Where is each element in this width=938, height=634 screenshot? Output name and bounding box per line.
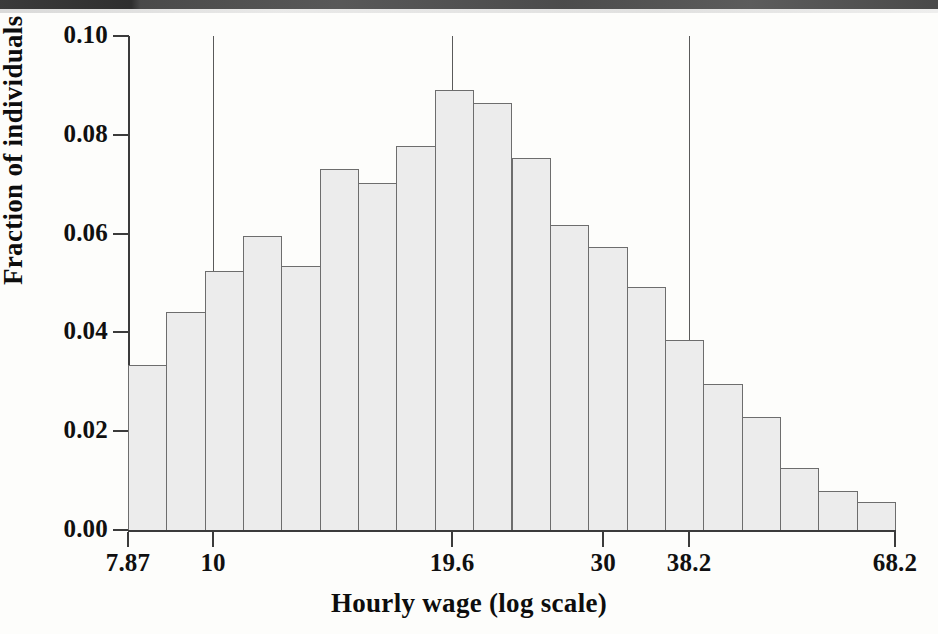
histogram-bar (473, 103, 512, 530)
histogram-bar (358, 183, 397, 530)
x-axis-line (128, 530, 896, 532)
histogram-bar (243, 236, 282, 530)
y-tick-mark (113, 134, 129, 136)
histogram-bar (396, 146, 435, 530)
y-tick-mark (113, 35, 129, 37)
x-tick-label: 30 (591, 549, 616, 577)
plot-area (128, 36, 895, 530)
x-tick-mark (894, 532, 896, 547)
x-tick-mark (451, 532, 453, 547)
figure-canvas: 0.000.020.040.060.080.10 7.871019.63038.… (0, 0, 938, 634)
y-tick-label: 0.04 (0, 317, 108, 345)
x-tick-label: 19.6 (430, 549, 475, 577)
histogram-bar (281, 266, 320, 530)
histogram-bar (320, 169, 359, 530)
y-tick-mark (113, 529, 129, 531)
histogram-bar (435, 90, 474, 530)
histogram-bar (627, 287, 666, 530)
x-tick-label: 68.2 (873, 549, 918, 577)
x-tick-mark (127, 532, 129, 547)
histogram-bar (703, 384, 742, 530)
y-axis-title: Fraction of individuals (0, 16, 29, 285)
histogram-bar (588, 247, 627, 530)
reference-line (452, 36, 453, 90)
scan-band-top (0, 0, 938, 9)
x-tick-mark (688, 532, 690, 547)
reference-line (689, 36, 690, 340)
y-tick-mark (113, 233, 129, 235)
histogram-bar (550, 225, 589, 530)
histogram-bar (205, 271, 244, 530)
x-tick-mark (602, 532, 604, 547)
histogram-bar (512, 158, 551, 530)
scan-band-top-fade (0, 9, 938, 13)
histogram-bar (857, 502, 896, 530)
y-tick-label: 0.02 (0, 416, 108, 444)
histogram-bar (166, 312, 205, 530)
histogram-bar (128, 365, 167, 530)
x-tick-label: 7.87 (106, 549, 151, 577)
x-tick-label: 10 (200, 549, 225, 577)
y-tick-label: 0.00 (0, 515, 108, 543)
histogram-bar (742, 417, 781, 530)
histogram-bar (818, 491, 857, 530)
y-tick-mark (113, 430, 129, 432)
y-tick-mark (113, 331, 129, 333)
histogram-bar (780, 468, 819, 530)
histogram-bar (665, 340, 704, 530)
x-tick-label: 38.2 (667, 549, 712, 577)
x-axis-title: Hourly wage (log scale) (0, 588, 938, 619)
x-tick-mark (212, 532, 214, 547)
reference-line (213, 36, 214, 271)
